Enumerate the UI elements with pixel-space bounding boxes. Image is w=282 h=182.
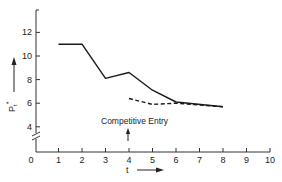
x-tick-label: 0	[28, 155, 33, 165]
y-label-text: Pt*	[5, 101, 18, 112]
x-ticks: 012345678910	[28, 148, 275, 165]
y-tick-label: 6	[27, 98, 32, 108]
annotation-text: Competitive Entry	[101, 116, 169, 126]
competitive-entry-annotation: Competitive Entry	[101, 116, 169, 141]
y-tick-label: 4	[27, 122, 32, 132]
y-ticks: 4681012	[22, 27, 40, 131]
series-solid-line	[59, 44, 224, 106]
x-tick-label: 5	[150, 155, 155, 165]
series-dashed-line	[129, 99, 223, 107]
x-label-text: t	[126, 165, 129, 175]
y-tick-label: 12	[22, 27, 32, 37]
x-tick-label: 8	[220, 155, 225, 165]
x-tick-label: 3	[103, 155, 108, 165]
x-tick-label: 7	[197, 155, 202, 165]
y-axis	[32, 10, 40, 152]
x-tick-label: 9	[244, 155, 249, 165]
chart: 4681012 012345678910 Pt* t Competitive E…	[0, 0, 282, 182]
x-tick-label: 1	[56, 155, 61, 165]
x-axis-label: t	[126, 165, 164, 175]
arrow-up-icon	[126, 128, 130, 134]
x-tick-label: 6	[173, 155, 178, 165]
x-tick-label: 4	[126, 155, 131, 165]
x-tick-label: 10	[265, 155, 275, 165]
y-tick-label: 8	[27, 75, 32, 85]
y-axis-label: Pt*	[5, 57, 18, 112]
y-tick-label: 10	[22, 51, 32, 61]
arrow-right-icon	[156, 168, 164, 173]
x-tick-label: 2	[79, 155, 84, 165]
arrow-up-icon	[12, 57, 17, 65]
